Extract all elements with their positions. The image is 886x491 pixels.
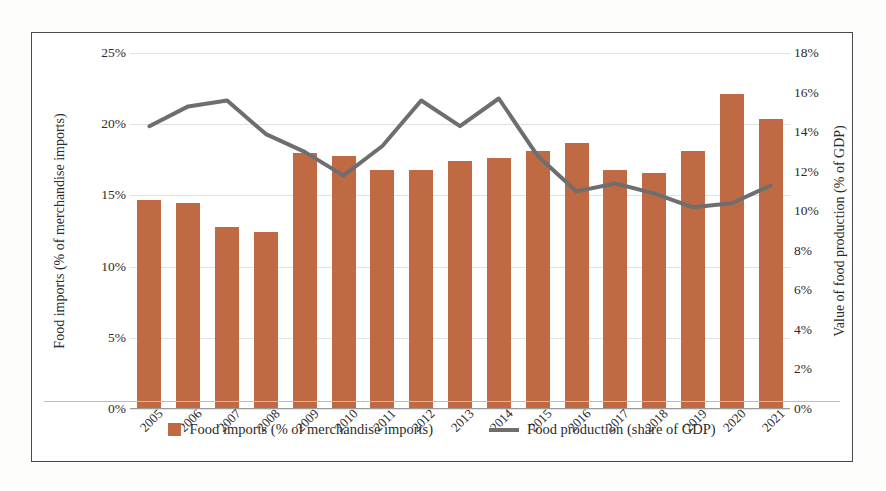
right-axis-tick-label: 0% — [794, 402, 812, 416]
left-axis-tick-label: 20% — [101, 117, 126, 131]
left-axis-title-text: Food imports (% of merchandise imports) — [52, 113, 68, 348]
right-axis-tick-label: 10% — [794, 204, 819, 218]
legend-label-food-imports: Food imports (% of merchandise imports) — [189, 421, 433, 438]
chart-legend: Food imports (% of merchandise imports) … — [32, 421, 852, 438]
left-axis-tick-label: 25% — [101, 46, 126, 60]
right-axis-tick-label: 4% — [794, 323, 812, 337]
right-axis-tick-label: 12% — [794, 165, 819, 179]
left-axis-tick-label: 15% — [101, 188, 126, 202]
line-swatch-icon — [489, 428, 519, 432]
legend-divider — [44, 401, 840, 402]
right-axis-ticks: 0%2%4%6%8%10%12%14%16%18% — [794, 53, 834, 409]
plot-inner — [130, 53, 790, 409]
left-axis-tick-label: 10% — [101, 260, 126, 274]
chart-frame: Food imports (% of merchandise imports) … — [31, 32, 853, 462]
left-axis-tick-label: 0% — [108, 402, 126, 416]
legend-label-food-production: Food production (share of GDP) — [527, 421, 715, 438]
legend-item-food-production[interactable]: Food production (share of GDP) — [489, 421, 715, 438]
right-axis-tick-label: 14% — [794, 125, 819, 139]
right-axis-title: Value of food production (% of GDP) — [830, 53, 850, 409]
left-axis-ticks: 0%5%10%15%20%25% — [82, 53, 126, 409]
right-axis-tick-label: 6% — [794, 283, 812, 297]
bar-swatch-icon — [168, 423, 181, 436]
chart-page: Food imports (% of merchandise imports) … — [0, 0, 886, 491]
plot-area — [130, 53, 790, 409]
right-axis-tick-label: 2% — [794, 362, 812, 376]
right-axis-title-text: Value of food production (% of GDP) — [832, 125, 848, 337]
right-axis-tick-label: 18% — [794, 46, 819, 60]
legend-item-food-imports[interactable]: Food imports (% of merchandise imports) — [168, 421, 433, 438]
line-series — [130, 53, 790, 409]
left-axis-tick-label: 5% — [108, 331, 126, 345]
right-axis-tick-label: 16% — [794, 86, 819, 100]
left-axis-title: Food imports (% of merchandise imports) — [50, 53, 70, 409]
right-axis-tick-label: 8% — [794, 244, 812, 258]
food-production-line[interactable] — [149, 99, 770, 208]
